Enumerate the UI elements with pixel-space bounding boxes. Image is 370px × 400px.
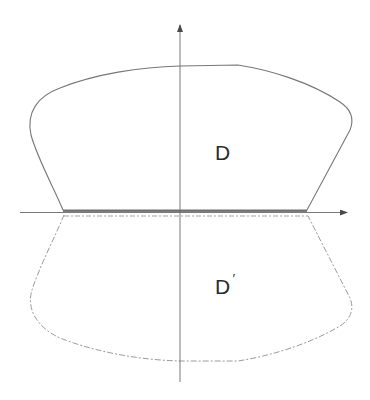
region-d-prime-boundary [30,215,351,361]
diagram-canvas: D D ′ [0,0,370,400]
region-d-label: D [215,141,230,164]
prime-mark: ′ [232,271,235,286]
region-d-prime-label: D [215,275,230,298]
region-d-boundary [30,65,352,210]
